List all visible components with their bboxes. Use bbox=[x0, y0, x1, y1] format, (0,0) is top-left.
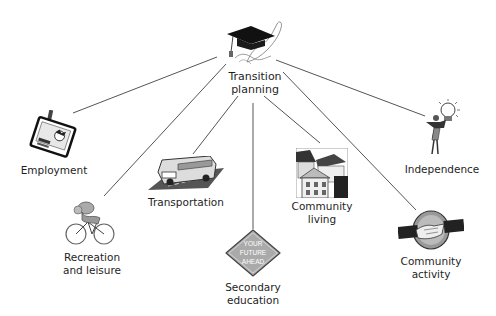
road-sign-icon: YOUR FUTURE AHEAD bbox=[224, 229, 282, 277]
person-lightbulb-icon bbox=[420, 98, 464, 156]
independence-label: Independence bbox=[400, 163, 484, 176]
edge-transportation bbox=[193, 96, 238, 154]
community-activity-label-line1: Community bbox=[396, 255, 466, 268]
community-activity-label-line2: activity bbox=[396, 268, 466, 281]
secondary-education-label-line2: education bbox=[221, 294, 285, 307]
diagram-canvas: Transition planning Employment bbox=[0, 0, 496, 316]
cyclist-icon bbox=[64, 198, 116, 246]
center-label-line1: Transition bbox=[225, 70, 285, 83]
community-living-label-line2: living bbox=[286, 213, 358, 226]
edge-community-living bbox=[264, 96, 320, 143]
handshake-icon bbox=[398, 210, 464, 250]
sign-text-line3: AHEAD bbox=[242, 258, 265, 265]
id-badge-icon bbox=[28, 110, 78, 160]
secondary-education-label-line1: Secondary bbox=[221, 281, 285, 294]
employment-label: Employment bbox=[14, 164, 94, 177]
recreation-label-line1: Recreation bbox=[60, 251, 124, 264]
recreation-label-line2: and leisure bbox=[60, 264, 124, 277]
edge-employment bbox=[73, 57, 217, 113]
transportation-label: Transportation bbox=[140, 196, 232, 209]
bus-icon bbox=[148, 156, 224, 192]
sign-text-line2: FUTURE bbox=[240, 249, 267, 256]
houses-icon bbox=[296, 148, 348, 198]
center-label-line2: planning bbox=[225, 83, 285, 96]
community-living-label-line1: Community bbox=[286, 200, 358, 213]
sign-text-line1: YOUR bbox=[244, 240, 263, 247]
graduation-cap-diploma-icon bbox=[225, 18, 285, 66]
